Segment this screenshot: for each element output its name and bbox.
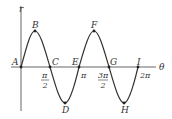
theta-axis-label: θ: [159, 62, 165, 72]
tick-pi: π: [80, 71, 87, 80]
tick-pi-over-2-den: 2: [42, 81, 48, 90]
point-c: [49, 66, 52, 69]
sine-graph: r θ A B C D E F G H I π 2 π 3π 2 2π: [0, 0, 172, 119]
point-d: [64, 102, 67, 105]
r-axis-label: r: [19, 4, 24, 14]
label-g: G: [110, 57, 117, 67]
point-f: [93, 30, 96, 33]
tick-pi-over-2-num: π: [41, 71, 48, 80]
tick-2pi: 2π: [139, 71, 151, 80]
point-a: [20, 66, 23, 69]
point-b: [34, 30, 37, 33]
point-h: [123, 102, 126, 105]
label-i: I: [136, 57, 141, 67]
label-d: D: [61, 105, 69, 115]
tick-3pi-over-2-num: 3π: [98, 71, 109, 80]
label-a: A: [11, 57, 19, 67]
tick-3pi-over-2-den: 2: [100, 81, 106, 90]
label-f: F: [90, 20, 98, 30]
label-e: E: [71, 57, 79, 67]
label-c: C: [52, 57, 59, 67]
label-b: B: [31, 20, 39, 30]
label-h: H: [120, 105, 129, 115]
